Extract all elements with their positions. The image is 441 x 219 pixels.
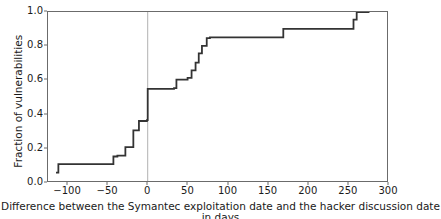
ecdf-step-plot bbox=[48, 12, 387, 181]
chart-figure: 0.00.20.40.60.81.0 −100−5005010015020025… bbox=[0, 0, 441, 219]
x-axis-ticklabels: −100−50050100150200250300 bbox=[47, 186, 388, 200]
y-tickmark bbox=[44, 113, 47, 114]
y-ticklabel: 0.8 bbox=[27, 40, 43, 50]
y-ticklabel: 1.0 bbox=[27, 6, 43, 16]
y-tickmark bbox=[44, 79, 47, 80]
y-tickmarks bbox=[43, 11, 47, 182]
x-ticklabel: 250 bbox=[338, 186, 357, 196]
x-ticklabel: 0 bbox=[144, 186, 150, 196]
x-ticklabel: −100 bbox=[53, 186, 80, 196]
y-tickmark bbox=[44, 45, 47, 46]
x-ticklabel: 300 bbox=[378, 186, 397, 196]
x-ticklabel: 50 bbox=[181, 186, 194, 196]
x-ticklabel: 150 bbox=[258, 186, 277, 196]
y-tickmark bbox=[44, 11, 47, 12]
y-ticklabel: 0.0 bbox=[27, 177, 43, 187]
y-tickmark bbox=[44, 147, 47, 148]
x-axis-label: Difference between the Symantec exploita… bbox=[0, 201, 441, 219]
y-ticklabel: 0.4 bbox=[27, 109, 43, 119]
x-ticklabel: 200 bbox=[298, 186, 317, 196]
y-ticklabel: 0.6 bbox=[27, 74, 43, 84]
ecdf-series-line bbox=[56, 12, 369, 173]
y-axis-label: Fraction of vulnerabilities bbox=[13, 21, 24, 181]
y-ticklabel: 0.2 bbox=[27, 143, 43, 153]
plot-area bbox=[47, 11, 388, 182]
x-ticklabel: −50 bbox=[97, 186, 118, 196]
x-ticklabel: 100 bbox=[218, 186, 237, 196]
